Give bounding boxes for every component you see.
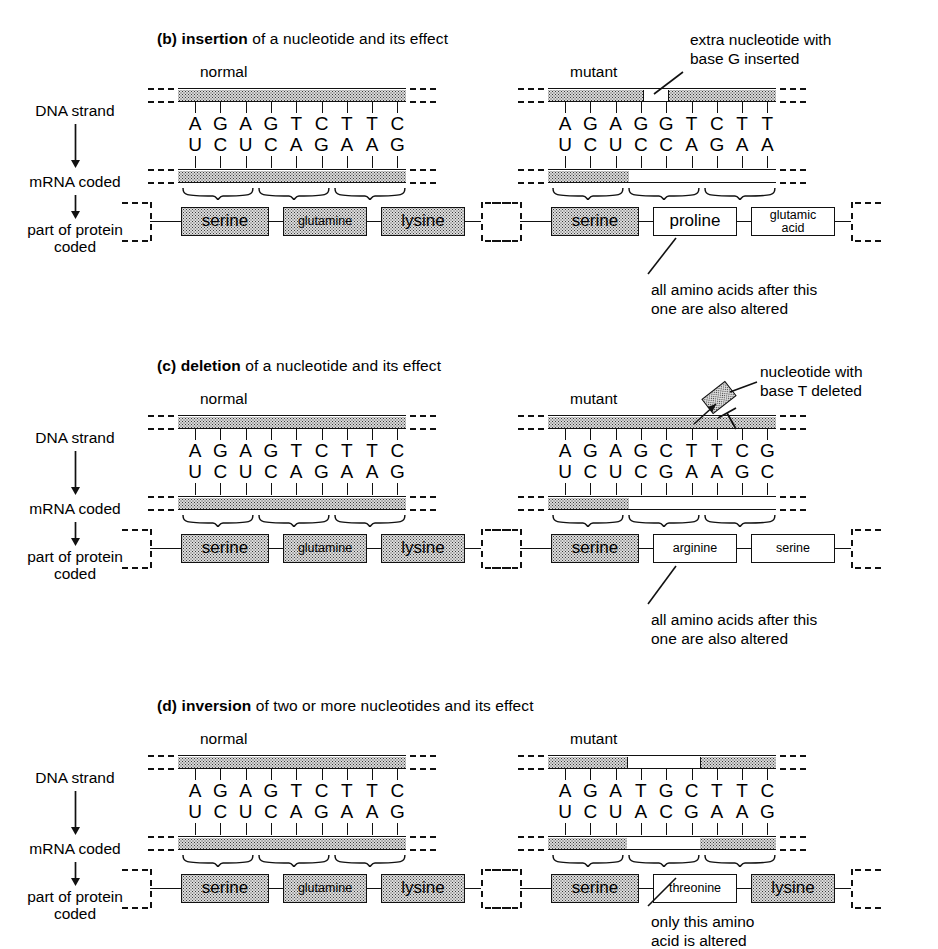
- panel-c-mutant-mrna-dash-right-bot: [780, 509, 806, 511]
- panel-c-mutant-mrna-base-4: G: [655, 461, 677, 482]
- panel-c-normal-mrna-rule: [178, 496, 406, 497]
- panel-b-normal-aabox-label-2: lysine: [401, 215, 444, 228]
- panel-c-mutant-dna-tick-0: [565, 429, 566, 440]
- panel-c-normal-aabox-label-1: glutamine: [298, 542, 352, 555]
- panel-d-mutant-aabox-label-2: lysine: [771, 882, 814, 895]
- panel-d-normal-mrna-base-4: A: [285, 801, 307, 822]
- panel-d-normal-dna-tick-0: [195, 769, 196, 780]
- panel-b-altered-leader: [646, 236, 678, 276]
- panel-c-normal-mrna-tick-8: [397, 483, 398, 495]
- panel-d-normal-codon-brace-1: [258, 854, 330, 867]
- panel-c-delete-callout: nucleotide withbase T deleted: [760, 362, 863, 400]
- panel-b-normal-protein-dash-bl: [122, 240, 148, 242]
- panel-b-normal-mrna-base-0: U: [184, 134, 206, 155]
- panel-d-mutant-dna-tick-2: [616, 769, 617, 780]
- panel-b-normal-mrna-tick-5: [322, 156, 323, 168]
- panel-c-normal-protein-dash-tl: [122, 529, 148, 531]
- panel-b-mutant-mrna-dash-left-top: [518, 169, 544, 171]
- panel-d-normal-aabox-label-0: serine: [202, 882, 248, 895]
- panel-b-insert-callout-line1: extra nucleotide with: [690, 30, 831, 49]
- panel-b-mutant-dna-tick-6: [717, 102, 718, 113]
- panel-b-normal-dna-seg-0: [178, 90, 406, 101]
- panel-d-normal-dna-dash-left-bot: [148, 768, 174, 770]
- panel-b-normal-aabox-label-1: glutamine: [298, 215, 352, 228]
- panel-d-normal-mrna-base-6: A: [336, 801, 358, 822]
- panel-c-normal-mrna-base-2: U: [235, 461, 257, 482]
- panel-d-mutant-mrna-tick-4: [666, 823, 667, 835]
- panel-c-mutant-protein-connector-1: [737, 548, 751, 549]
- panel-b-mutant-mrna-tick-6: [717, 156, 718, 168]
- panel-d-normal-dna-band: [178, 757, 406, 768]
- panel-c-mutant-aabox-2: serine: [751, 534, 835, 563]
- panel-d-mutant-dna-tick-5: [692, 769, 693, 780]
- panel-d-mutant-protein-dash-tl: [492, 869, 518, 871]
- panel-b-normal-mrna-tick-7: [372, 156, 373, 168]
- panel-b-normal-dna-tick-3: [271, 102, 272, 113]
- panel-c-normal-dna-dash-left-top: [148, 415, 174, 417]
- panel-d-normal-dna-dash-right-top: [410, 755, 436, 757]
- panel-b-down-arrow-icon-2: [70, 195, 81, 219]
- panel-b-mutant-protein-dash-bl: [492, 240, 518, 242]
- panel-b-normal-mrna-base-3: C: [260, 134, 282, 155]
- panel-b-normal-aabox-2: lysine: [381, 207, 465, 236]
- panel-c-normal-mrna-base-3: C: [260, 461, 282, 482]
- panel-d-normal-mrna-tick-7: [372, 823, 373, 835]
- panel-b-mutant-aabox-label-2: glutamicacid: [770, 209, 817, 234]
- panel-c-normal-aabox-2: lysine: [381, 534, 465, 563]
- panel-c-normal-dna-tick-0: [195, 429, 196, 440]
- panel-c-heading-mutant: mutant: [570, 390, 617, 408]
- panel-b-normal-dna-rule: [178, 88, 406, 89]
- panel-d-normal-mrna-tick-3: [271, 823, 272, 835]
- panel-c-altered-callout: all amino acids after thisone are also a…: [651, 610, 817, 648]
- panel-b-mutant-dna-base-8: T: [756, 113, 778, 134]
- panel-b-normal-dna-base-5: C: [311, 113, 333, 134]
- panel-b-mutant-dna-tick-8: [767, 102, 768, 113]
- panel-d-normal-dna-base-2: A: [235, 780, 257, 801]
- panel-b-normal-dna-base-3: G: [260, 113, 282, 134]
- panel-c-mutant-dna-tick-4: [666, 429, 667, 440]
- panel-c-mutant-mrna-seg-0: [548, 498, 629, 509]
- panel-b-mutant-mrna-rule2: [548, 182, 776, 183]
- panel-c-mutant-codon-brace-2: [704, 514, 776, 527]
- panel-c-normal-protein-tail-connector: [465, 548, 481, 549]
- panel-b-mutant-mrna-tick-1: [590, 156, 591, 168]
- panel-b-mutant-dna-tick-1: [590, 102, 591, 113]
- panel-b-mutant-mrna-base-4: C: [655, 134, 677, 155]
- panel-b-title-rest: of a nucleotide and its effect: [252, 30, 448, 47]
- panel-c-title-rest: of a nucleotide and its effect: [245, 357, 441, 374]
- panel-d-mutant-mrna-base-7: A: [731, 801, 753, 822]
- panel-c-down-arrow-icon-2: [70, 522, 81, 546]
- panel-b-label-mrna-coded: mRNA coded: [0, 173, 150, 190]
- panel-b-normal-aabox-label-0: serine: [202, 215, 248, 228]
- panel-b-mutant-mrna-dash-right-top: [780, 169, 806, 171]
- panel-d-mutant-mrna-base-5: G: [681, 801, 703, 822]
- panel-d-normal-mrna-base-3: C: [260, 801, 282, 822]
- panel-d-normal-dna-tick-1: [220, 769, 221, 780]
- panel-c-normal-aabox-1: glutamine: [283, 534, 367, 563]
- panel-b-mutant-mrna-base-1: C: [579, 134, 601, 155]
- panel-d-mutant-mrna-tick-2: [616, 823, 617, 835]
- panel-b-mutant-dna-dash-right-top: [780, 88, 806, 90]
- panel-d-mutant-dna-dash-left-bot: [518, 768, 544, 770]
- panel-c-mutant-mrna-base-1: C: [579, 461, 601, 482]
- panel-c-label-part-of-protein: part of protein: [0, 548, 150, 565]
- panel-c-altered-callout-line2: one are also altered: [651, 629, 817, 648]
- panel-d-normal-mrna-base-1: C: [209, 801, 231, 822]
- panel-c-normal-dna-rule: [178, 415, 406, 416]
- panel-b-mutant-dna-tick-7: [742, 102, 743, 113]
- panel-c-normal-mrna-tick-2: [246, 483, 247, 495]
- panel-c-normal-dna-base-7: T: [361, 440, 383, 461]
- panel-b-normal-dna-base-4: T: [285, 113, 307, 134]
- panel-d-mutant-protein-connector-1: [737, 888, 751, 889]
- panel-c-mutant-dna-dash-right-bot: [780, 428, 806, 430]
- panel-c-mutant-mrna-tick-6: [717, 483, 718, 495]
- panel-c-normal-dna-tick-3: [271, 429, 272, 440]
- panel-b-normal-mrna-base-6: A: [336, 134, 358, 155]
- panel-c-normal-dna-tick-4: [296, 429, 297, 440]
- panel-c-mutant-mrna-base-6: A: [706, 461, 728, 482]
- panel-c-normal-dna-tick-6: [347, 429, 348, 440]
- panel-c-normal-protein-connector-1: [367, 548, 381, 549]
- panel-b-mutant-dna-base-1: G: [579, 113, 601, 134]
- panel-b-normal-dna-dash-left-bot: [148, 101, 174, 103]
- panel-d-normal-dna-tick-6: [347, 769, 348, 780]
